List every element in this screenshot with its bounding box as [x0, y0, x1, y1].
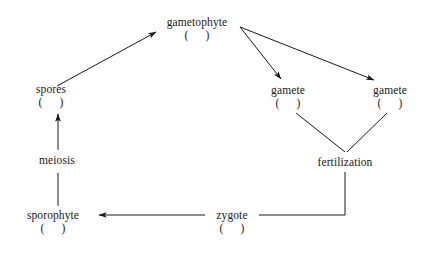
node-spores-label: spores	[36, 83, 66, 95]
node-spores: spores ()	[36, 83, 66, 109]
node-fertilization: fertilization	[318, 156, 373, 168]
arrow-spores-to-gametophyte	[57, 32, 156, 86]
line-gamete-right-to-fertilization	[347, 113, 387, 152]
node-fertilization-label: fertilization	[318, 156, 373, 168]
node-meiosis: meiosis	[39, 154, 75, 166]
line-fertilization-to-zygote	[259, 172, 345, 215]
ploidy-open-paren: (	[41, 222, 45, 234]
node-gametophyte: gametophyte ()	[167, 16, 228, 42]
node-gamete-right-ploidy: ()	[373, 97, 407, 109]
ploidy-close-paren: )	[240, 222, 244, 234]
node-gamete-left-label: gamete	[271, 84, 305, 96]
ploidy-open-paren: (	[276, 97, 280, 109]
node-sporophyte: sporophyte ()	[27, 209, 79, 235]
node-zygote: zygote ()	[216, 209, 247, 235]
node-sporophyte-ploidy: ()	[27, 222, 79, 234]
node-gamete-right: gamete ()	[373, 84, 407, 110]
ploidy-close-paren: )	[297, 97, 301, 109]
ploidy-close-paren: )	[61, 222, 65, 234]
ploidy-open-paren: (	[378, 97, 382, 109]
ploidy-close-paren: )	[399, 97, 403, 109]
arrow-gametophyte-to-gamete-right	[240, 27, 374, 80]
node-gamete-left: gamete ()	[271, 84, 305, 110]
node-spores-ploidy: ()	[36, 96, 66, 108]
node-gamete-right-label: gamete	[373, 84, 407, 96]
node-sporophyte-label: sporophyte	[27, 209, 79, 221]
node-gametophyte-label: gametophyte	[167, 16, 228, 28]
ploidy-open-paren: (	[185, 29, 189, 41]
node-zygote-label: zygote	[216, 209, 247, 221]
node-meiosis-label: meiosis	[39, 154, 75, 166]
node-zygote-ploidy: ()	[216, 222, 247, 234]
node-gamete-left-ploidy: ()	[271, 97, 305, 109]
line-gamete-left-to-fertilization	[296, 113, 345, 152]
node-gametophyte-ploidy: ()	[167, 29, 228, 41]
ploidy-close-paren: )	[206, 29, 210, 41]
ploidy-open-paren: (	[220, 222, 224, 234]
ploidy-open-paren: (	[39, 96, 43, 108]
ploidy-close-paren: )	[60, 96, 64, 108]
life-cycle-diagram: gametophyte () spores () gamete () gamet…	[0, 0, 429, 262]
